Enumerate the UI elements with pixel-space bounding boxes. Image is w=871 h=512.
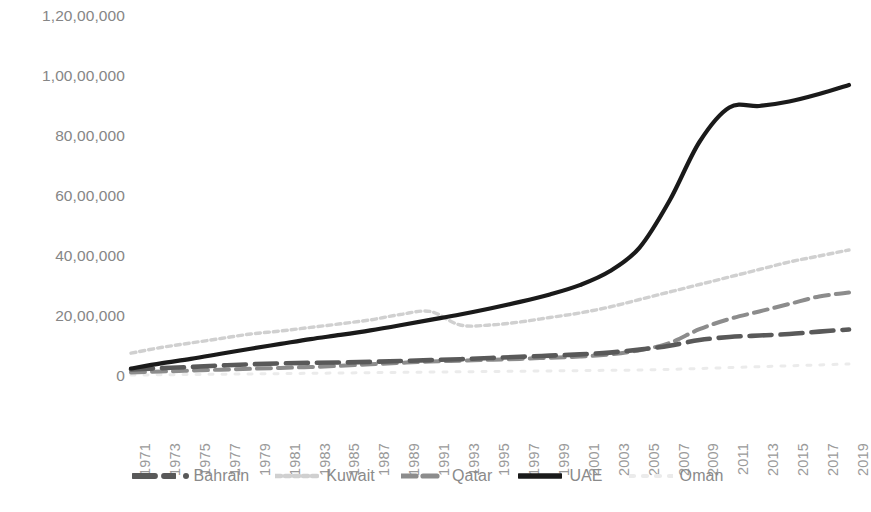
legend-swatch-bahrain-icon (132, 469, 176, 483)
chart-legend: BahrainKuwaitQatarUAEOman (0, 456, 856, 496)
legend-item-kuwait[interactable]: Kuwait (275, 467, 375, 485)
legend-label: Oman (680, 467, 724, 485)
legend-swatch-qatar-icon (401, 469, 445, 483)
legend-item-uae[interactable]: UAE (518, 467, 602, 485)
legend-marker-dot-icon (183, 473, 189, 479)
x-axis: 1971197319751977197919811983198519871989… (131, 381, 849, 451)
series-line-qatar (131, 293, 849, 373)
y-axis-tick-label: 60,00,000 (0, 187, 125, 205)
plot-area (131, 16, 849, 376)
y-axis-tick-label: 1,00,00,000 (0, 67, 125, 85)
legend-swatch-uae-icon (518, 469, 562, 483)
y-axis-tick-label: 80,00,000 (0, 127, 125, 145)
legend-item-oman[interactable]: Oman (629, 467, 724, 485)
y-axis-tick-label: 40,00,000 (0, 247, 125, 265)
legend-swatch-oman-icon (629, 469, 673, 483)
legend-swatch-kuwait-icon (275, 469, 319, 483)
plot-svg (131, 16, 849, 376)
x-axis-tick-label: 2019 (855, 443, 871, 476)
legend-label: UAE (569, 467, 602, 485)
legend-label: Qatar (452, 467, 493, 485)
legend-item-bahrain[interactable]: Bahrain (132, 467, 249, 485)
y-axis-tick-label: 1,20,00,000 (0, 7, 125, 25)
legend-label: Bahrain (193, 467, 249, 485)
legend-item-qatar[interactable]: Qatar (401, 467, 493, 485)
y-axis-tick-label: 0 (0, 367, 125, 385)
y-axis-tick-label: 20,00,000 (0, 307, 125, 325)
legend-label: Kuwait (326, 467, 375, 485)
y-axis: 020,00,00040,00,00060,00,00080,00,0001,0… (0, 0, 125, 400)
